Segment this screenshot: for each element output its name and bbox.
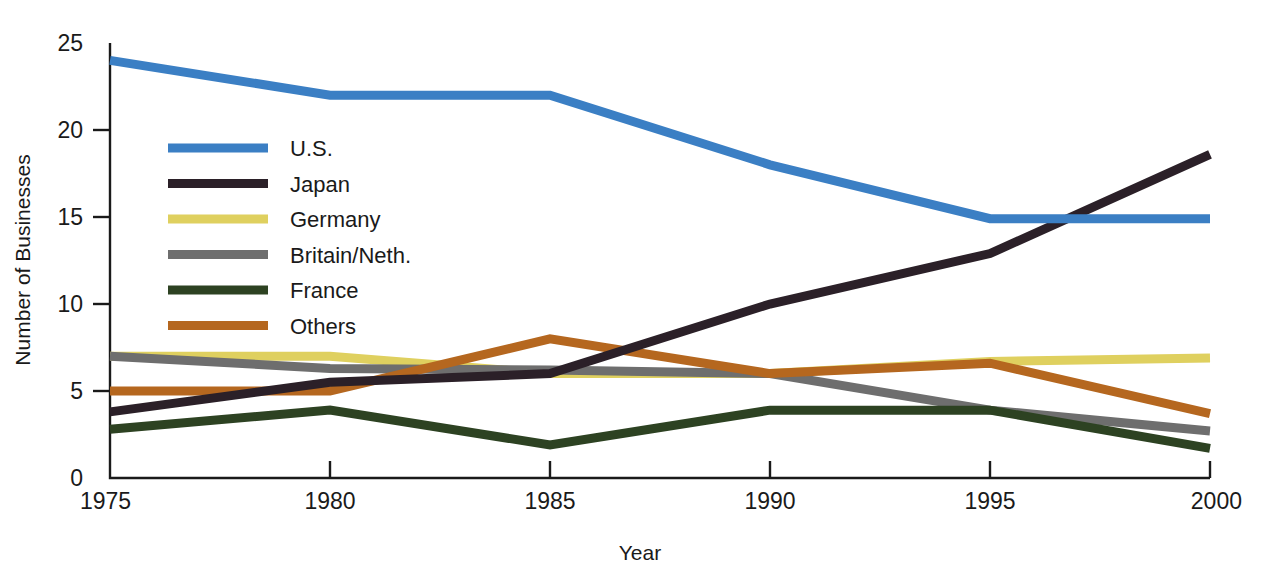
line-chart: Number of Businesses Year 0510152025 197… (0, 0, 1265, 580)
y-axis-title: Number of Businesses (11, 154, 34, 365)
x-tick-label: 1995 (964, 488, 1015, 514)
x-tick-label: 2000 (1191, 488, 1242, 514)
legend-label-u-s: U.S. (290, 136, 333, 161)
legend-label-others: Others (290, 314, 356, 339)
y-tick-label: 25 (57, 30, 83, 56)
x-axis-ticks: 197519801985199019952000 (80, 461, 1242, 514)
y-tick-label: 20 (57, 117, 83, 143)
y-tick-label: 15 (57, 204, 83, 230)
x-tick-label: 1985 (524, 488, 575, 514)
series-line-france (110, 410, 1210, 448)
legend-label-britain-neth: Britain/Neth. (290, 243, 411, 268)
x-tick-label: 1980 (304, 488, 355, 514)
y-tick-label: 10 (57, 291, 83, 317)
x-tick-label: 1975 (80, 488, 131, 514)
series-line-u-s (110, 60, 1210, 218)
y-tick-label: 5 (70, 378, 83, 404)
series-lines-group (110, 60, 1210, 448)
legend-label-japan: Japan (290, 172, 350, 197)
y-axis-ticks: 0510152025 (57, 30, 110, 491)
legend-label-france: France (290, 278, 358, 303)
y-axis-title-label: Number of Businesses (11, 154, 34, 365)
chart-canvas: Number of Businesses Year 0510152025 197… (0, 0, 1265, 580)
legend: U.S.JapanGermanyBritain/Neth.FranceOther… (168, 136, 411, 339)
x-axis-title-label: Year (619, 541, 661, 564)
legend-label-germany: Germany (290, 207, 380, 232)
x-tick-label: 1990 (744, 488, 795, 514)
